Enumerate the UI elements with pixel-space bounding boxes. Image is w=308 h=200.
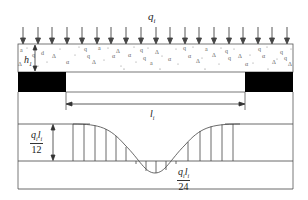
svg-text:a: a <box>20 47 23 53</box>
midspan-moment-label: qili 24 <box>177 167 190 192</box>
svg-text:Δ: Δ <box>196 58 200 64</box>
svg-text:a: a <box>98 45 101 51</box>
svg-text:Δ: Δ <box>155 49 159 55</box>
svg-text:q: q <box>258 46 261 52</box>
svg-text:Δ: Δ <box>116 48 120 54</box>
svg-text:Δ: Δ <box>92 59 96 65</box>
svg-text:a: a <box>150 60 153 66</box>
svg-text:Δ: Δ <box>288 61 292 67</box>
svg-text:q: q <box>84 46 87 52</box>
svg-text:q: q <box>280 49 283 55</box>
svg-text:Δ: Δ <box>18 61 22 67</box>
svg-text:q: q <box>183 45 186 51</box>
support-moment-dimension <box>51 125 55 161</box>
svg-text:q: q <box>284 55 287 61</box>
distributed-load-arrows <box>21 27 290 44</box>
svg-text:a: a <box>205 46 208 52</box>
span-dimension <box>66 102 245 106</box>
thickness-label: h1 <box>24 54 32 67</box>
diagram-canvas: adq Δαq qΔa αΔα qqΔ αqα ΔaΔ qqΔ qαΔ qqΔ … <box>0 0 308 200</box>
span-label: li <box>150 108 154 121</box>
svg-text:q: q <box>140 47 143 53</box>
svg-text:Δ: Δ <box>238 53 242 59</box>
svg-text:Δ: Δ <box>212 52 216 58</box>
soil-layer: adq Δαq qΔa αΔα qqΔ αqα ΔaΔ qqΔ qαΔ qqΔ … <box>18 44 293 72</box>
svg-text:d: d <box>41 50 44 56</box>
svg-text:Δ: Δ <box>272 59 276 65</box>
svg-text:q: q <box>225 48 228 54</box>
svg-text:q: q <box>32 52 35 58</box>
svg-text:Δ: Δ <box>52 53 56 59</box>
svg-text:q: q <box>143 55 146 61</box>
moment-diagram <box>18 124 293 189</box>
left-support <box>18 72 66 92</box>
svg-text:q: q <box>228 55 231 61</box>
right-support <box>245 72 293 92</box>
load-label: qi <box>148 10 155 25</box>
svg-text:q: q <box>87 53 90 59</box>
support-moment-label: qili 12 <box>30 130 43 155</box>
